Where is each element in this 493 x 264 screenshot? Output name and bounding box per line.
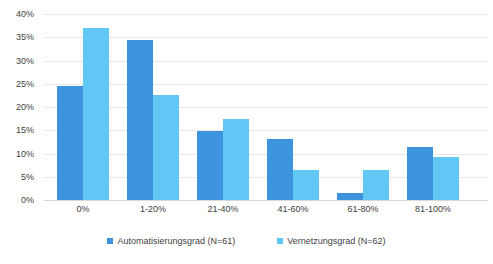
x-axis-tick-label: 1-20%: [118, 204, 188, 215]
x-axis-tick-label: 41-60%: [258, 204, 328, 215]
plot-area: [44, 14, 488, 200]
bar-group: [57, 14, 109, 200]
gridline: [44, 200, 488, 201]
bar: [337, 193, 363, 200]
y-axis-tick-label: 30%: [16, 57, 34, 66]
legend-label: Vernetzungsgrad (N=62): [287, 236, 385, 246]
bar-group: [127, 14, 179, 200]
legend-item[interactable]: Automatisierungsgrad (N=61): [107, 236, 235, 246]
bar: [57, 86, 83, 200]
bar: [223, 119, 249, 200]
y-axis-tick-label: 20%: [16, 103, 34, 112]
bar: [127, 40, 153, 200]
legend-swatch-icon: [107, 238, 113, 244]
bar: [83, 28, 109, 201]
y-axis-tick-label: 5%: [21, 173, 34, 182]
x-axis-tick-label: 61-80%: [328, 204, 398, 215]
y-axis-tick-label: 0%: [21, 196, 34, 205]
bar-group: [337, 14, 389, 200]
y-axis-tick-label: 40%: [16, 10, 34, 19]
bar: [433, 157, 459, 200]
y-axis-tick-label: 10%: [16, 150, 34, 159]
chart-legend: Automatisierungsgrad (N=61)Vernetzungsgr…: [0, 236, 493, 246]
bar-group: [267, 14, 319, 200]
legend-swatch-icon: [277, 238, 283, 244]
x-axis: 0%1-20%21-40%41-60%61-80%81-100%: [44, 204, 488, 220]
legend-label: Automatisierungsgrad (N=61): [117, 236, 235, 246]
y-axis-tick-label: 35%: [16, 33, 34, 42]
bar: [197, 131, 223, 200]
bar: [363, 170, 389, 200]
y-axis: 0%5%10%15%20%25%30%35%40%: [0, 0, 40, 214]
x-axis-tick-label: 81-100%: [398, 204, 468, 215]
y-axis-tick-label: 25%: [16, 80, 34, 89]
bar-chart: 0%5%10%15%20%25%30%35%40% 0%1-20%21-40%4…: [0, 0, 493, 264]
bar: [153, 95, 179, 200]
x-axis-tick-label: 21-40%: [188, 204, 258, 215]
y-axis-tick-label: 15%: [16, 126, 34, 135]
bar: [407, 147, 433, 200]
x-axis-tick-label: 0%: [48, 204, 118, 215]
legend-item[interactable]: Vernetzungsgrad (N=62): [277, 236, 385, 246]
bar: [293, 170, 319, 200]
bar-group: [197, 14, 249, 200]
bar: [267, 139, 293, 200]
bar-group: [407, 14, 459, 200]
